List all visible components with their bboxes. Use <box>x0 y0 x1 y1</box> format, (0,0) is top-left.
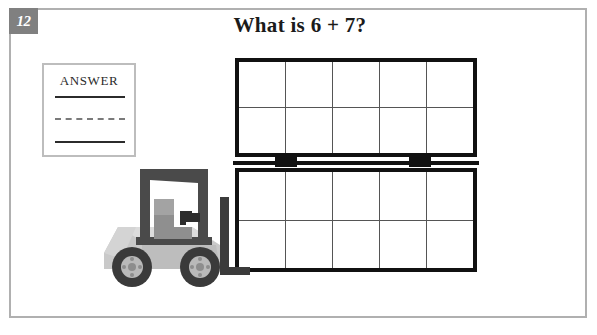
forklift-hub-bolt <box>122 265 126 269</box>
crate-column <box>380 172 427 268</box>
crate-cell <box>427 172 473 221</box>
crate-cell <box>427 108 473 153</box>
crate-cell <box>286 172 332 221</box>
question-number-badge: 12 <box>9 8 38 34</box>
crate-cell <box>333 221 379 269</box>
forklift-hub-bolt <box>190 265 194 269</box>
bottom-crate <box>235 168 477 272</box>
crate-cell <box>380 172 426 221</box>
answer-line-dashed-middle <box>55 118 125 120</box>
forklift-hub-bolt <box>198 257 202 261</box>
forklift-hub-bolt <box>206 265 210 269</box>
pallet-block <box>275 157 297 167</box>
answer-box[interactable]: ANSWER <box>42 63 136 157</box>
crate-cell <box>380 62 426 108</box>
pallet-deck <box>233 161 479 165</box>
page-title: What is 6 + 7? <box>120 13 480 38</box>
crate-cell <box>286 62 332 108</box>
crate-cell <box>380 108 426 153</box>
crate-cell <box>333 172 379 221</box>
forklift-mast-icon <box>220 197 229 275</box>
forklift-control-panel <box>186 213 200 222</box>
forklift-wheel-cap <box>196 263 204 271</box>
crate-cell <box>333 62 379 108</box>
answer-line-solid-top <box>55 96 125 98</box>
forklift-illustration <box>96 163 256 288</box>
crate-cell <box>427 62 473 108</box>
forklift-hub-bolt <box>138 265 142 269</box>
pallet-block <box>409 157 431 167</box>
crate-cell <box>427 221 473 269</box>
forklift-hub-bolt <box>130 273 134 277</box>
answer-label: ANSWER <box>44 73 134 89</box>
crate-cell <box>286 108 332 153</box>
crate-cell <box>380 221 426 269</box>
forklift-fork-icon <box>220 267 250 275</box>
crate-column <box>239 62 286 153</box>
crate-cell <box>239 108 285 153</box>
worksheet-card: 12 What is 6 + 7? ANSWER <box>0 0 597 335</box>
forklift-hub-bolt <box>130 257 134 261</box>
crate-cell <box>286 221 332 269</box>
crate-column <box>333 62 380 153</box>
forklift-seat-back <box>154 199 174 215</box>
top-crate <box>235 58 477 157</box>
forklift-wheel-cap <box>128 263 136 271</box>
crate-column <box>333 172 380 268</box>
crate-cell <box>239 62 285 108</box>
forklift-cab-roof <box>140 169 208 178</box>
crate-column <box>380 62 427 153</box>
forklift-hub-bolt <box>198 273 202 277</box>
crate-column <box>286 172 333 268</box>
crate-cell <box>333 108 379 153</box>
crate-column <box>427 62 473 153</box>
answer-line-solid-bottom <box>55 141 125 143</box>
pallet <box>233 157 479 168</box>
crate-column <box>427 172 473 268</box>
crate-column <box>286 62 333 153</box>
